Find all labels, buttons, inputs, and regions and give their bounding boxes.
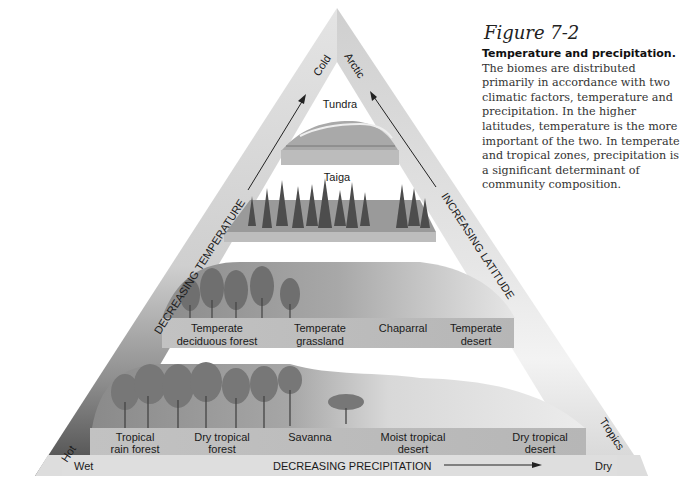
label-temperate-desert-2: desert <box>461 335 492 347</box>
label-moist-tropical-desert-2: desert <box>398 443 429 455</box>
label-moist-tropical-desert-1: Moist tropical <box>381 431 446 443</box>
label-tropical-rainforest-1: Tropical <box>116 431 155 443</box>
label-temperate-deciduous-1: Temperate <box>191 322 243 334</box>
label-dry-tropical-forest-2: forest <box>208 443 236 455</box>
label-chaparral: Chaparral <box>379 322 427 334</box>
wet-label: Wet <box>74 460 93 472</box>
dry-label: Dry <box>595 460 613 472</box>
figure-caption-body: The biomes are distributed primarily in … <box>482 62 680 192</box>
label-savanna: Savanna <box>288 431 332 443</box>
figure-number: Figure 7-2 <box>484 22 687 43</box>
figure-caption-title: Temperature and precipitation. <box>482 47 676 60</box>
label-temperate-grassland-2: grassland <box>296 335 344 347</box>
label-tundra: Tundra <box>323 98 358 110</box>
label-temperate-deciduous-2: deciduous forest <box>177 335 258 347</box>
label-dry-tropical-desert-1: Dry tropical <box>512 431 568 443</box>
figure-caption-text: Temperature and precipitation. The biome… <box>482 47 687 193</box>
label-temperate-desert-1: Temperate <box>450 322 502 334</box>
bottom-axis-label: DECREASING PRECIPITATION <box>273 460 432 472</box>
label-taiga: Taiga <box>324 171 351 183</box>
label-temperate-grassland-1: Temperate <box>294 322 346 334</box>
label-tropical-rainforest-2: rain forest <box>111 443 160 455</box>
label-dry-tropical-desert-2: desert <box>525 443 556 455</box>
label-dry-tropical-forest-1: Dry tropical <box>194 431 250 443</box>
figure-caption: Figure 7-2 Temperature and precipitation… <box>482 22 687 193</box>
